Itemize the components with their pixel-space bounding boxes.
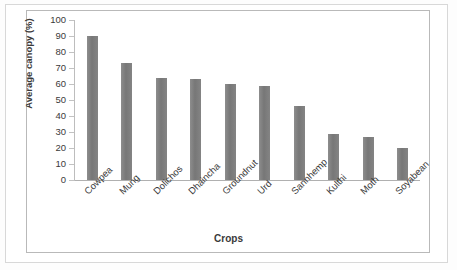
bar <box>225 84 236 180</box>
y-axis-title: Average canopy (%) <box>23 0 34 139</box>
chart-figure: 0102030405060708090100 Average canopy (%… <box>0 0 457 270</box>
y-axis-tick <box>69 148 74 149</box>
y-axis-tick-label: 10 <box>24 159 66 169</box>
y-axis-tick <box>69 164 74 165</box>
x-axis-title: Crops <box>0 233 457 244</box>
bar <box>121 63 132 180</box>
bar <box>190 79 201 180</box>
y-axis-tick <box>69 36 74 37</box>
bar <box>87 36 98 180</box>
y-axis-tick <box>69 132 74 133</box>
bar <box>328 134 339 180</box>
y-axis-tick <box>69 84 74 85</box>
y-axis-tick <box>69 20 74 21</box>
y-axis-line <box>74 20 75 181</box>
y-axis-tick-label: 0 <box>24 175 66 185</box>
y-axis-tick <box>69 116 74 117</box>
y-axis-tick <box>69 100 74 101</box>
y-axis-tick <box>69 180 74 181</box>
y-axis-tick-label: 20 <box>24 143 66 153</box>
y-axis-tick <box>69 52 74 53</box>
bar <box>156 78 167 180</box>
bar <box>294 106 305 180</box>
bar <box>259 86 270 180</box>
y-axis-tick <box>69 68 74 69</box>
